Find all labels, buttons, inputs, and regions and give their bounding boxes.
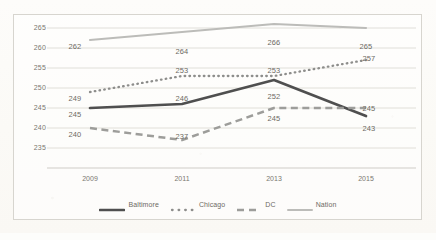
series-line-nation [90, 24, 366, 40]
data-label-chicago-2015: 257 [356, 54, 382, 63]
dotted-line-swatch-icon [170, 200, 196, 208]
legend-label-baltimore: Baltimore [128, 201, 158, 208]
series-line-dc [90, 108, 366, 140]
data-label-baltimore-2009: 245 [62, 110, 88, 119]
data-label-chicago-2011: 253 [169, 66, 195, 75]
legend-item-chicago[interactable]: Chicago [170, 200, 225, 208]
legend-label-nation: Nation [316, 201, 337, 208]
thin-line-swatch-icon [287, 200, 313, 208]
solid-line-swatch-icon [99, 200, 125, 208]
legend-label-dc: DC [265, 201, 275, 208]
data-label-baltimore-2015: 243 [356, 124, 382, 133]
data-label-dc-2013: 245 [261, 114, 287, 123]
series-line-chicago [90, 60, 366, 92]
data-label-chicago-2009: 249 [62, 94, 88, 103]
data-label-baltimore-2013: 252 [261, 92, 287, 101]
legend-label-chicago: Chicago [199, 201, 225, 208]
data-label-nation-2015: 265 [353, 42, 379, 51]
data-label-baltimore-2011: 246 [169, 94, 195, 103]
data-label-nation-2009: 262 [62, 42, 88, 51]
legend-item-nation[interactable]: Nation [287, 200, 337, 208]
dashed-line-swatch-icon [236, 200, 262, 208]
data-label-dc-2009: 240 [62, 130, 88, 139]
series-line-baltimore [90, 80, 366, 116]
data-label-chicago-2013: 253 [261, 66, 287, 75]
data-label-nation-2011: 264 [169, 47, 195, 56]
data-label-nation-2013: 266 [261, 38, 287, 47]
chart-legend: Baltimore Chicago DC Nation [0, 197, 436, 211]
legend-item-dc[interactable]: DC [236, 200, 275, 208]
legend-item-baltimore[interactable]: Baltimore [99, 200, 158, 208]
data-label-dc-2015: 245 [356, 104, 382, 113]
data-label-dc-2011: 237 [169, 132, 195, 141]
